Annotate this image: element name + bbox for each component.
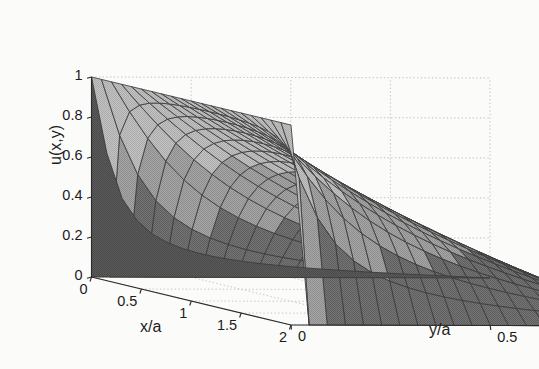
x-tick-label: 0 (79, 281, 87, 297)
x-tick-label: 0.5 (117, 293, 137, 309)
x-axis-label: x/a (140, 318, 161, 336)
surface-plot-figure (0, 0, 539, 369)
z-tick-label: 1 (74, 67, 82, 83)
y-tick-label: 0 (298, 328, 306, 344)
x-tick-label: 1.5 (217, 317, 237, 333)
z-tick-label: 0.8 (62, 107, 82, 123)
y-axis-label: y/a (429, 321, 450, 339)
x-tick-label: 2 (279, 329, 287, 345)
z-tick-label: 0.2 (62, 227, 82, 243)
x-tick-label: 1 (179, 305, 187, 321)
z-tick-label: 0.4 (62, 187, 82, 203)
y-tick-label: 0.5 (497, 329, 517, 345)
z-tick-label: 0.6 (62, 147, 82, 163)
